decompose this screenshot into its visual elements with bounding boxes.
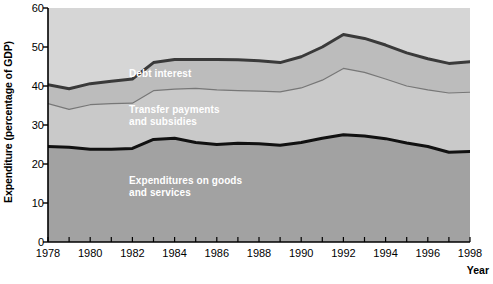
- x-tick-label-1996: 1996: [416, 247, 440, 259]
- plot-area: [48, 8, 470, 242]
- x-tick-label-1994: 1994: [373, 247, 397, 259]
- y-tick-20: 20: [18, 158, 44, 170]
- x-tick-label-1988: 1988: [247, 247, 271, 259]
- x-tick-label-1992: 1992: [331, 247, 355, 259]
- series-label-debt-interest: Debt interest: [129, 68, 191, 80]
- x-tick-label-1998: 1998: [458, 247, 482, 259]
- x-tick-label-1978: 1978: [36, 247, 60, 259]
- x-axis-tick-labels: 1978198019821984198619881990199219941996…: [0, 247, 493, 263]
- y-tick-30: 30: [18, 119, 44, 131]
- x-tick-label-1986: 1986: [205, 247, 229, 259]
- y-tick-40: 40: [18, 80, 44, 92]
- y-tick-50: 50: [18, 41, 44, 53]
- expenditure-area-chart: Expenditure (percentage of GDP) 60 50 40…: [0, 0, 493, 284]
- y-tick-10: 10: [18, 197, 44, 209]
- y-axis-tick-labels: 60 50 40 30 20 10 0: [18, 0, 44, 284]
- x-axis-title: Year: [467, 264, 489, 276]
- series-label-goods-and-services: Expenditures on goods and services: [129, 175, 242, 199]
- x-tick-label-1980: 1980: [78, 247, 102, 259]
- stacked-area-plot: [48, 8, 470, 242]
- x-tick-label-1990: 1990: [289, 247, 313, 259]
- area-0: [48, 135, 470, 242]
- x-tick-label-1982: 1982: [120, 247, 144, 259]
- y-tick-60: 60: [18, 2, 44, 14]
- x-tick-label-1984: 1984: [162, 247, 186, 259]
- y-axis-title: Expenditure (percentage of GDP): [0, 0, 16, 244]
- series-label-transfer-payments: Transfer payments and subsidies: [129, 104, 220, 128]
- y-axis-title-text: Expenditure (percentage of GDP): [2, 41, 14, 203]
